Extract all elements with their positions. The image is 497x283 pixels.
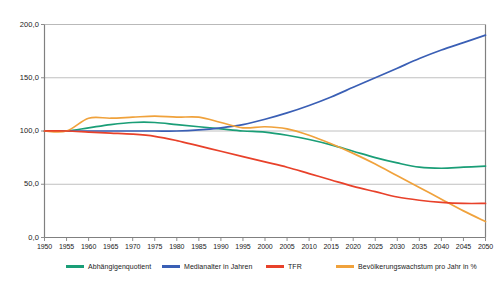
legend-color-swatch bbox=[336, 265, 354, 268]
legend-item-label: Bevölkerungswachstum pro Jahr in % bbox=[358, 263, 477, 270]
legend-item-label: Medianalter in Jahren bbox=[184, 263, 252, 270]
legend-item[interactable]: Medianalter in Jahren bbox=[162, 263, 252, 270]
legend-item-label: TFR bbox=[288, 263, 302, 270]
chart-legend: AbhängigenquotientMedianalter in JahrenT… bbox=[44, 261, 485, 277]
y-axis-tick-label: 150,0 bbox=[2, 73, 39, 82]
legend-item[interactable]: Bevölkerungswachstum pro Jahr in % bbox=[336, 263, 477, 270]
legend-color-swatch bbox=[266, 265, 284, 268]
x-axis-ticks bbox=[45, 238, 486, 242]
series-line bbox=[45, 35, 486, 131]
population-indicators-line-chart: 0,050,0100,0150,0200,0 19501955196019651… bbox=[0, 0, 497, 283]
chart-plot-area bbox=[0, 0, 497, 283]
legend-item[interactable]: Abhängigenquotient bbox=[66, 263, 151, 270]
legend-color-swatch bbox=[162, 265, 180, 268]
y-axis-tick-label: 100,0 bbox=[2, 126, 39, 135]
legend-item[interactable]: TFR bbox=[266, 263, 302, 270]
y-axis-tick-label: 50,0 bbox=[2, 179, 39, 188]
data-series-lines bbox=[45, 35, 486, 221]
legend-color-swatch bbox=[66, 265, 84, 268]
gridlines bbox=[45, 25, 486, 185]
y-axis-tick-label: 0,0 bbox=[2, 233, 39, 242]
x-axis-tick-label: 2050 bbox=[472, 243, 497, 250]
legend-item-label: Abhängigenquotient bbox=[88, 263, 151, 270]
y-axis-tick-label: 200,0 bbox=[2, 20, 39, 29]
